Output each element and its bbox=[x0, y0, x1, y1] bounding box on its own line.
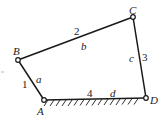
length-symbol-a: a bbox=[36, 73, 42, 85]
link-number-3: 3 bbox=[142, 51, 148, 63]
four-bar-linkage-diagram: B C A D 1 2 3 4 a b c d bbox=[0, 0, 168, 124]
link-number-2: 2 bbox=[74, 25, 80, 37]
joint-B bbox=[16, 58, 21, 63]
length-symbol-c: c bbox=[129, 52, 134, 64]
label-B: B bbox=[13, 45, 20, 57]
joint-A bbox=[42, 98, 47, 103]
joint-D bbox=[144, 96, 149, 101]
link-2-BC bbox=[18, 17, 133, 60]
length-symbol-d: d bbox=[110, 87, 116, 99]
label-D: D bbox=[149, 94, 158, 106]
link-number-4: 4 bbox=[87, 87, 93, 99]
length-symbol-b: b bbox=[81, 40, 87, 52]
label-A: A bbox=[36, 105, 44, 117]
label-C: C bbox=[129, 4, 137, 16]
link-number-1: 1 bbox=[22, 78, 28, 90]
